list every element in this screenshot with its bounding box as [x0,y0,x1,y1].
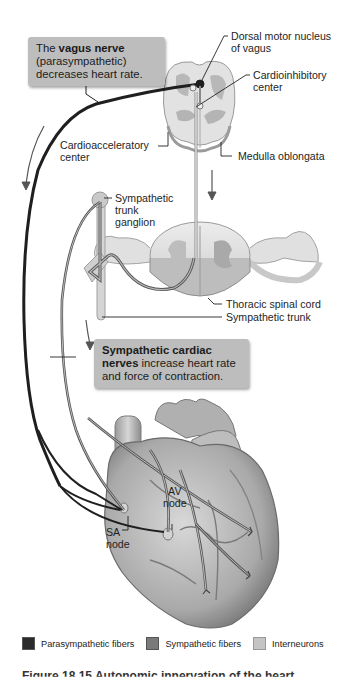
label-cardioinhibitory-center: Cardioinhibitory center [253,69,327,93]
callout-text: (parasympathetic) [36,55,126,67]
callout-text: and force of contraction. [102,370,223,382]
label-line: SA [106,526,130,538]
legend-item-interneurons: Interneurons [253,637,324,650]
sympathetic-cardiac-nerves-callout: Sympathetic cardiac nerves increase hear… [94,339,249,388]
label-line: AV [163,485,187,497]
label-line: Cardioinhibitory [253,69,327,81]
thoracic-spinal-cord [95,222,321,296]
callout-bold-term: nerves [102,357,138,369]
label-line: center [60,151,149,163]
label-line: Sympathetic [115,192,173,204]
label-dorsal-motor-nucleus: Dorsal motor nucleus of vagus [231,30,331,54]
label-line: node [163,497,187,509]
label-line: Dorsal motor nucleus [231,30,331,42]
label-line: center [253,81,327,93]
heart [105,399,279,628]
callout-text: The [36,42,59,54]
label-line: trunk [115,204,173,216]
legend-label: Parasympathetic fibers [41,639,134,649]
legend-label: Sympathetic fibers [165,639,241,649]
parasympathetic-swatch [22,637,35,650]
label-sa-node: SA node [106,526,130,550]
callout-text: increase heart rate [138,357,235,369]
legend-item-parasympathetic: Parasympathetic fibers [22,637,134,650]
label-line: ganglion [115,216,173,228]
label-line: Cardioacceleratory [60,139,149,151]
figure-caption: Figure 18.15 Autonomic innervation of th… [22,669,298,678]
sympathetic-swatch [146,637,159,650]
legend: Parasympathetic fibers Sympathetic fiber… [22,637,336,650]
callout-bold-term: vagus nerve [59,42,125,54]
vagus-nerve-callout: The vagus nerve (parasympathetic) decrea… [28,37,165,86]
callout-text: decreases heart rate. [36,68,143,80]
legend-item-sympathetic: Sympathetic fibers [146,637,241,650]
label-line: node [106,538,130,550]
label-sympathetic-trunk-ganglion: Sympathetic trunk ganglion [115,192,173,228]
label-cardioacceleratory-center: Cardioacceleratory center [60,139,149,163]
label-av-node: AV node [163,485,187,509]
label-sympathetic-trunk: Sympathetic trunk [226,311,311,323]
legend-label: Interneurons [272,639,324,649]
label-line: of vagus [231,42,331,54]
autonomic-heart-innervation-figure: The vagus nerve (parasympathetic) decrea… [0,0,359,678]
label-thoracic-spinal-cord: Thoracic spinal cord [226,298,321,310]
interneurons-swatch [253,637,266,650]
callout-bold-term: Sympathetic cardiac [102,344,212,356]
label-medulla-oblongata: Medulla oblongata [238,150,325,162]
